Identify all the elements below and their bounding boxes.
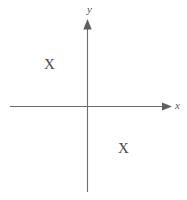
point-mark-quadrant-2: X (44, 57, 55, 72)
x-axis-label: x (175, 100, 180, 111)
axes-graphic (0, 0, 187, 200)
coordinate-plane-diagram: y x X X (0, 0, 187, 200)
y-axis-label: y (87, 4, 92, 15)
arrow-up-icon (83, 19, 91, 30)
arrow-right-icon (162, 103, 172, 111)
point-mark-quadrant-4: X (118, 141, 129, 156)
